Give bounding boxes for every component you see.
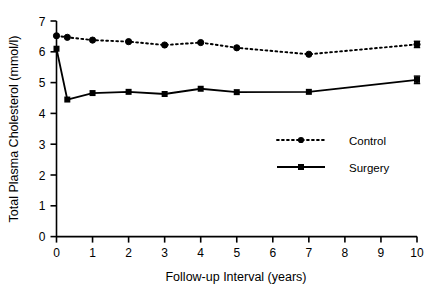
data-point-marker (53, 33, 59, 39)
legend-label: Surgery (349, 162, 390, 174)
legend-marker (298, 137, 304, 143)
chart-figure: 01234567 012345678910 Total Plasma Chole… (0, 0, 433, 297)
x-tick-label: 9 (378, 246, 385, 260)
x-axis-title: Follow-up Interval (years) (165, 270, 306, 284)
data-point-marker (126, 89, 132, 95)
x-tick-label: 4 (197, 246, 204, 260)
data-point-marker (162, 42, 168, 48)
data-point-marker (162, 91, 168, 97)
data-point-marker (198, 86, 204, 92)
x-tick-label: 7 (306, 246, 313, 260)
data-point-marker (126, 39, 132, 45)
legend-label: Control (349, 135, 386, 147)
y-tick-label: 7 (39, 15, 46, 29)
y-tick-label: 2 (39, 169, 46, 183)
x-tick-label: 8 (342, 246, 349, 260)
data-point-marker (306, 89, 312, 95)
x-tick-label: 10 (410, 246, 424, 260)
y-tick-label: 0 (39, 230, 46, 244)
legend-marker (298, 164, 304, 170)
cholesterol-line-chart: 01234567 012345678910 Total Plasma Chole… (0, 0, 433, 297)
data-point-marker (90, 90, 96, 96)
x-tick-label: 0 (53, 246, 60, 260)
y-tick-label: 3 (39, 138, 46, 152)
x-tick-label: 3 (161, 246, 168, 260)
data-point-marker (306, 51, 312, 57)
x-tick-label: 6 (269, 246, 276, 260)
data-point-marker (64, 97, 70, 103)
data-point-marker (198, 39, 204, 45)
y-tick-label: 5 (39, 76, 46, 90)
y-tick-label: 6 (39, 45, 46, 59)
y-tick-label: 1 (39, 199, 46, 213)
data-point-marker (64, 34, 70, 40)
x-tick-label: 2 (125, 246, 132, 260)
y-axis-title: Total Plasma Cholesterol (mmol/l) (7, 36, 21, 223)
y-tick-label: 4 (39, 107, 46, 121)
data-point-marker (54, 46, 60, 52)
data-point-marker (234, 45, 240, 51)
x-tick-label: 1 (89, 246, 96, 260)
x-tick-label: 5 (233, 246, 240, 260)
data-point-marker (89, 37, 95, 43)
data-point-marker (234, 89, 240, 95)
